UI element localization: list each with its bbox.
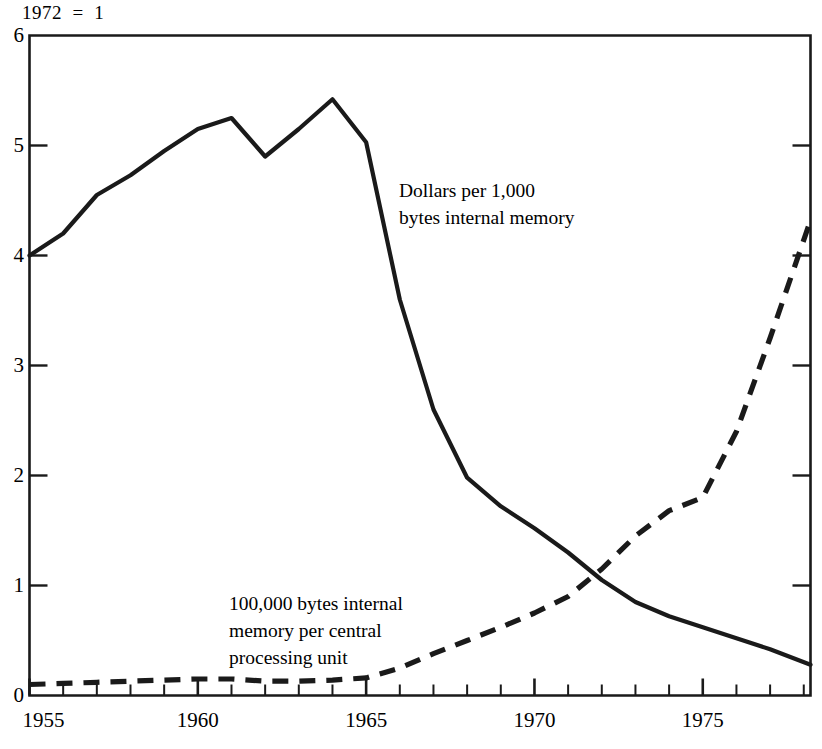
y-axis-tick-label: 0 (0, 685, 24, 706)
x-axis-tick-label: 1970 (494, 710, 574, 731)
y-axis-tick-label: 3 (0, 355, 24, 376)
y-axis-tick-label: 6 (0, 25, 24, 46)
chart-container: 1972 = 1 0123456 19551960196519701975 Do… (0, 0, 822, 749)
annotation-bytes-per-cpu: 100,000 bytes internal memory per centra… (229, 591, 403, 672)
y-axis-tick-label: 2 (0, 465, 24, 486)
series-line-bytes-per-cpu (30, 220, 811, 684)
x-axis-tick-label: 1955 (4, 710, 84, 731)
y-axis-tick-label: 4 (0, 245, 24, 266)
x-axis-tick-label: 1975 (663, 710, 743, 731)
y-axis-tick-label: 5 (0, 135, 24, 156)
annotation-dollars-per-1000-bytes: Dollars per 1,000 bytes internal memory (399, 178, 574, 232)
x-axis-tick-label: 1960 (158, 710, 238, 731)
y-axis-tick-label: 1 (0, 575, 24, 596)
x-axis-tick-label: 1965 (326, 710, 406, 731)
chart-plot-area (0, 0, 822, 749)
